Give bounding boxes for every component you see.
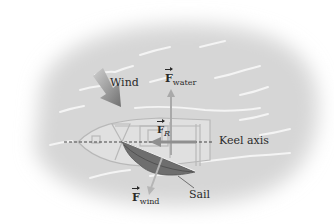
sail-label: Sail (189, 188, 210, 201)
wind-label-text: Wind (110, 76, 139, 89)
f-water-label: Fwater (165, 72, 196, 87)
f-water-subscript: water (173, 78, 196, 87)
f-water-symbol: F (165, 72, 173, 85)
sailboat-diagram: Wind Fwater FR Keel axis Fwind Sail (0, 0, 334, 224)
keel-axis-text: Keel axis (219, 134, 269, 147)
f-r-symbol: F (157, 124, 164, 135)
water-background (35, 24, 318, 205)
diagram-svg (0, 0, 334, 224)
sail-text: Sail (189, 188, 210, 201)
f-wind-label: Fwind (132, 191, 160, 206)
f-wind-subscript: wind (140, 197, 160, 206)
keel-axis-label: Keel axis (219, 134, 269, 147)
wind-label: Wind (110, 76, 139, 89)
f-wind-symbol: F (132, 191, 140, 204)
f-r-label: FR (157, 124, 170, 138)
f-r-subscript: R (164, 129, 170, 138)
